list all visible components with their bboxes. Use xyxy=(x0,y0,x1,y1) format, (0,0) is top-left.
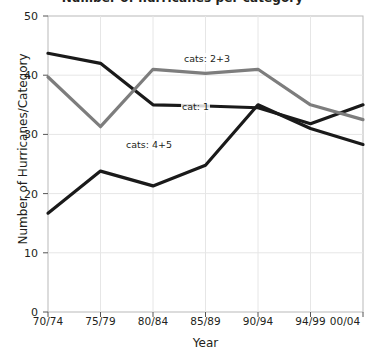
series-annotation-cats-2-3: cats: 2+3 xyxy=(183,53,231,64)
series-annotation-cat-1: cat: 1 xyxy=(181,101,210,112)
series-annotation-cats-4-5: cats: 4+5 xyxy=(125,139,173,150)
chart-figure: Number of hurricanes per category Number… xyxy=(0,0,365,360)
